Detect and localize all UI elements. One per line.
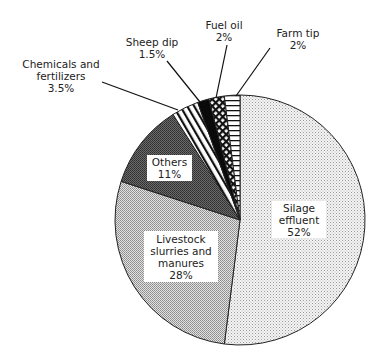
leader-line-sheep-dip xyxy=(167,61,200,102)
livestock-label-line2: slurries and xyxy=(150,245,211,257)
livestock-label-line3: manures xyxy=(158,257,204,269)
leader-line-fuel-oil xyxy=(216,45,227,98)
farm-tip-pct: 2% xyxy=(290,39,307,51)
pie-slices xyxy=(115,95,365,345)
silage-label-line2: effluent xyxy=(279,214,320,226)
chemicals-pct: 3.5% xyxy=(48,82,75,94)
silage-pct: 52% xyxy=(287,226,310,238)
chemicals-label-line2: fertilizers xyxy=(36,70,85,82)
leader-line-farm-tip xyxy=(236,48,270,96)
farm-tip-label: Farm tip xyxy=(277,27,320,39)
leader-line-chemicals xyxy=(102,82,178,110)
chemicals-label-line1: Chemicals and xyxy=(22,58,99,70)
pie-chart: Others 11% Livestock slurries and manure… xyxy=(0,0,389,357)
livestock-pct: 28% xyxy=(169,269,192,281)
livestock-label-line1: Livestock xyxy=(156,233,206,245)
sheep-dip-pct: 1.5% xyxy=(139,48,166,60)
sheep-dip-label: Sheep dip xyxy=(126,36,179,48)
others-pct: 11% xyxy=(158,168,181,180)
others-label: Others xyxy=(152,156,187,168)
fuel-oil-pct: 2% xyxy=(216,31,233,43)
fuel-oil-label: Fuel oil xyxy=(205,19,242,31)
silage-label-line1: Silage xyxy=(283,202,315,214)
